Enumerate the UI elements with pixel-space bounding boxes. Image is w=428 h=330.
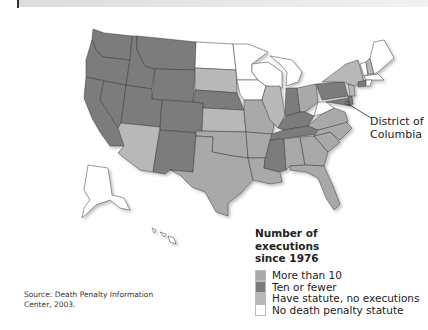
legend-title-line3: since 1976 [255,252,419,265]
dc-callout-line [348,104,371,118]
state-kansas [202,108,246,132]
legend-label: No death penalty statute [272,304,403,316]
legend-label: More than 10 [272,269,342,281]
legend-item-more-than-10: More than 10 [255,270,419,282]
swatch-statute-no-executions [255,293,266,305]
state-arizona [118,123,160,172]
legend-label: Have statute, no executions [272,292,419,304]
state-hawaii [152,228,176,244]
source-line2: Center, 2003. [24,300,153,310]
legend-title: Number of executions since 1976 [255,227,419,265]
dc-callout-label: District of Columbia [370,115,424,141]
state-wyoming [152,69,195,102]
legend-items: More than 10 Ten or fewer Have statute, … [255,270,419,316]
state-pennsylvania [316,82,348,100]
swatch-no-statute [255,304,266,316]
dc-label-line2: Columbia [370,128,424,141]
source-line1: Source: Death Penalty Information [24,290,153,300]
state-maine [370,40,394,74]
state-new-mexico [153,130,196,174]
swatch-ten-or-fewer [255,281,266,293]
dc-label-line1: District of [370,115,424,128]
state-montana [137,36,196,70]
state-north-dakota [195,42,236,70]
legend-title-line2: executions [255,240,419,253]
state-colorado [160,100,203,133]
swatch-more-than-10 [255,270,266,282]
legend-item-statute-no-executions: Have statute, no executions [255,293,419,305]
state-new-york [322,60,364,86]
legend-label: Ten or fewer [272,281,337,293]
state-florida [290,165,340,210]
dc-marker [345,101,349,105]
state-rhode-island [366,80,372,86]
legend-item-ten-or-fewer: Ten or fewer [255,281,419,293]
state-ohio [297,84,318,112]
source-note: Source: Death Penalty Information Center… [24,290,153,310]
state-alaska [82,165,130,218]
map-legend: Number of executions since 1976 More tha… [255,227,419,316]
legend-title-line1: Number of [255,227,419,240]
state-south-dakota [195,68,237,93]
legend-item-no-statute: No death penalty statute [255,304,419,316]
state-massachusetts [364,74,384,80]
